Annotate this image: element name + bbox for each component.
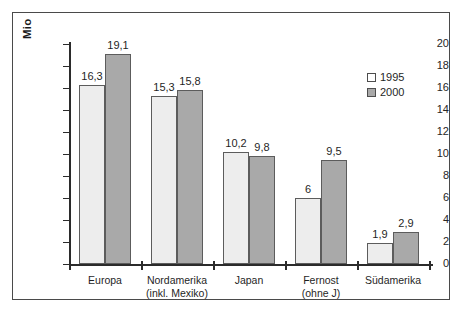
bar-value-label: 2,9: [388, 217, 424, 229]
legend-swatch-2000: [367, 88, 376, 97]
legend-item-1995: 1995: [367, 70, 404, 85]
bar-value-label: 1,9: [362, 228, 398, 240]
chart-frame: Mio 02468101214161820 EuropaNordamerika …: [12, 12, 450, 300]
bar-1995-0: [79, 85, 105, 264]
chart-legend: 1995 2000: [367, 70, 404, 100]
bar-2000-3: [321, 160, 347, 265]
plot-area: Mio 02468101214161820 EuropaNordamerika …: [13, 13, 449, 299]
bar-value-label: 16,3: [74, 70, 110, 82]
legend-label-2000: 2000: [380, 87, 404, 98]
legend-item-2000: 2000: [367, 85, 404, 100]
bar-value-label: 19,1: [100, 39, 136, 51]
bar-value-label: 6: [290, 183, 326, 195]
bar-1995-1: [151, 96, 177, 264]
legend-swatch-1995: [367, 73, 376, 82]
bar-2000-0: [105, 54, 131, 264]
bar-2000-2: [249, 156, 275, 264]
bar-1995-2: [223, 152, 249, 264]
bar-1995-4: [367, 243, 393, 264]
bar-value-label: 9,5: [316, 145, 352, 157]
bar-value-label: 15,8: [172, 75, 208, 87]
bar-1995-3: [295, 198, 321, 264]
bar-2000-1: [177, 90, 203, 264]
legend-label-1995: 1995: [380, 72, 404, 83]
bar-value-label: 9,8: [244, 141, 280, 153]
x-axis-line: [69, 264, 433, 266]
category-label: Südamerika: [351, 274, 435, 287]
